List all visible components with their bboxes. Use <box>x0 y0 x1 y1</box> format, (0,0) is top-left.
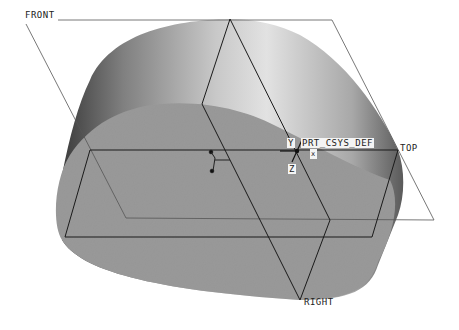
datum-label-front[interactable]: FRONT <box>25 10 55 20</box>
csys-axis-x-label: x <box>310 149 317 159</box>
model-viewport[interactable]: FRONT RIGHT TOP Y PRT_CSYS_DEF x Z <box>0 0 459 330</box>
csys-axis-z-label: Z <box>288 164 296 174</box>
datum-label-top[interactable]: TOP <box>400 143 418 153</box>
datum-label-right[interactable]: RIGHT <box>304 297 334 307</box>
csys-axis-y-label: Y <box>287 138 295 148</box>
csys-label[interactable]: PRT_CSYS_DEF <box>301 138 374 148</box>
model-graphics[interactable] <box>0 0 459 330</box>
